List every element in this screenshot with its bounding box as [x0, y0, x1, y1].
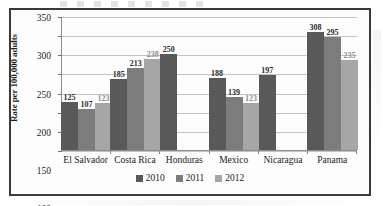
scan-artifact-right [373, 30, 381, 150]
x-axis-category-label: Mexico [209, 155, 258, 165]
bar-slot [177, 17, 193, 150]
legend-label: 2012 [225, 173, 244, 183]
plot-area: 350300250200150100500 125107123185213238… [61, 17, 357, 151]
bar[interactable]: 123 [243, 103, 260, 150]
bar-value-label: 188 [211, 69, 223, 78]
x-axis-group-tick [356, 150, 357, 154]
legend-item[interactable]: 2012 [215, 173, 244, 183]
legend-label: 2010 [146, 173, 165, 183]
bar-slot: 295 [324, 17, 341, 150]
x-axis-category-label: Costa Rica [110, 155, 159, 165]
bar[interactable]: 213 [127, 68, 144, 150]
bar[interactable]: 125 [61, 102, 78, 150]
bar-slot: 197 [259, 17, 276, 150]
bar-slot [276, 17, 292, 150]
legend-label: 2011 [186, 173, 205, 183]
bar-group: 125107123 [62, 17, 111, 150]
bar-group-bars: 125107123 [62, 17, 111, 150]
plot-inner: 350300250200150100500 125107123185213238… [61, 17, 357, 151]
bar-value-label: 235 [343, 51, 355, 60]
bar-group-bars: 197 [259, 17, 308, 150]
bar-group: 188139123 [210, 17, 259, 150]
y-axis-tick-label: 100 [37, 204, 51, 206]
legend-item[interactable]: 2010 [136, 173, 165, 183]
bar-chart: Rate per 100,000 adults 3503002502001501… [11, 10, 369, 194]
bar[interactable]: 107 [78, 109, 95, 150]
bar[interactable]: 139 [226, 97, 243, 150]
bar[interactable]: 197 [259, 75, 276, 150]
bar[interactable]: 188 [209, 78, 226, 150]
legend-swatch-icon [176, 175, 183, 182]
bar[interactable]: 238 [144, 59, 161, 150]
bar-value-label: 125 [64, 93, 76, 102]
bar-value-label: 250 [163, 45, 175, 54]
bar-group-bars: 188139123 [210, 17, 259, 150]
x-axis-category-label: Honduras [160, 155, 209, 165]
bar-value-label: 238 [147, 50, 159, 59]
bar[interactable]: 185 [110, 79, 127, 150]
x-axis-group-tick [258, 150, 259, 154]
x-axis-group-tick [307, 150, 308, 154]
scan-artifact-bottom [10, 200, 370, 205]
bar-value-label: 107 [81, 100, 93, 109]
y-axis-tick-label: 200 [37, 128, 51, 138]
figure-frame: Rate per 100,000 adults 3503002502001501… [9, 8, 371, 196]
bar-groups: 1251071231852132382501881391231973082952… [62, 17, 357, 150]
bar-slot: 250 [160, 17, 177, 150]
bar-slot: 107 [78, 17, 95, 150]
x-axis-category-label: El Salvador [61, 155, 110, 165]
bar-slot [193, 17, 209, 150]
bar-group: 197 [259, 17, 308, 150]
bar-slot: 123 [243, 17, 260, 150]
bar-group-bars: 185213238 [111, 17, 160, 150]
bar-value-label: 308 [309, 23, 321, 32]
bar-group-bars: 308295235 [308, 17, 357, 150]
bar-value-label: 123 [245, 94, 257, 103]
chart-legend: 201020112012 [11, 173, 369, 183]
x-axis-labels: El SalvadorCosta RicaHondurasMexicoNicar… [61, 155, 357, 165]
y-axis-tick: 0 [58, 151, 62, 152]
bar-slot: 235 [341, 17, 358, 150]
x-axis-category-label: Panama [308, 155, 357, 165]
bar-slot: 139 [226, 17, 243, 150]
bar-slot: 185 [110, 17, 127, 150]
bar-slot: 238 [144, 17, 161, 150]
bar[interactable]: 235 [341, 60, 358, 150]
bar-group: 250 [160, 17, 209, 150]
bar[interactable]: 295 [324, 37, 341, 150]
x-axis-group-tick [159, 150, 160, 154]
y-axis-tick-label: 300 [37, 51, 51, 61]
bar-group-bars: 250 [160, 17, 209, 150]
x-axis-category-label: Nicaragua [258, 155, 307, 165]
bar-slot [292, 17, 308, 150]
y-axis-tick-label: 350 [37, 13, 51, 23]
bar-slot: 308 [307, 17, 324, 150]
legend-swatch-icon [215, 175, 222, 182]
bar-value-label: 123 [98, 94, 110, 103]
y-axis-tick-label: 250 [37, 90, 51, 100]
y-axis-title: Rate per 100,000 adults [9, 22, 23, 134]
legend-item[interactable]: 2011 [176, 173, 205, 183]
bar-group: 308295235 [308, 17, 357, 150]
x-axis-group-tick [209, 150, 210, 154]
bar-value-label: 139 [228, 88, 240, 97]
x-axis-group-tick [110, 150, 111, 154]
bar-slot: 125 [61, 17, 78, 150]
bar-value-label: 213 [130, 59, 142, 68]
bar-value-label: 185 [113, 70, 125, 79]
scan-artifact-top [60, 1, 210, 7]
legend-swatch-icon [136, 175, 143, 182]
bar[interactable]: 308 [307, 32, 324, 150]
bar-value-label: 197 [261, 66, 273, 75]
bar-slot: 188 [209, 17, 226, 150]
bar-group: 185213238 [111, 17, 160, 150]
bar-slot: 213 [127, 17, 144, 150]
bar[interactable]: 250 [160, 54, 177, 150]
bar-value-label: 295 [326, 28, 338, 37]
